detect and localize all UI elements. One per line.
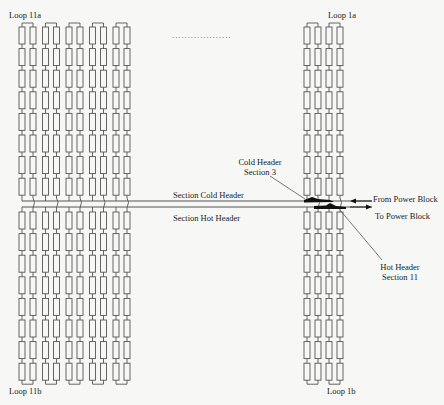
- loop-11-collector-module: [77, 298, 83, 315]
- loop-11-collector-module: [113, 178, 119, 195]
- loop-11-collector-module: [124, 157, 130, 174]
- loop-11-collector-module: [43, 178, 49, 195]
- loop-1-top-u-bend: [329, 23, 340, 27]
- loop-11-collector-module: [113, 298, 119, 315]
- loop-11-collector-module: [54, 27, 60, 44]
- loop-11-collector-module: [113, 212, 119, 229]
- loop-1-collector-module: [337, 363, 343, 380]
- loop-11-crossover: [57, 195, 59, 212]
- hot-header-section-label: Hot Header Section 11: [370, 262, 430, 282]
- loop-1-collector-module: [315, 234, 321, 251]
- loop-11-collector-module: [90, 320, 96, 337]
- cold-header-section-line1: Cold Header: [224, 157, 296, 167]
- loop-11-collector-module: [66, 92, 72, 109]
- loop-11-collector-module: [101, 178, 107, 195]
- loop-1-collector-module: [304, 298, 310, 315]
- loop-11-collector-module: [30, 178, 36, 195]
- cold-header-leader-line: [270, 176, 305, 199]
- loop-11-collector-module: [66, 49, 72, 66]
- loop-11-collector-module: [113, 135, 119, 152]
- loop-11-collector-module: [43, 49, 49, 66]
- loop-11-collector-module: [77, 92, 83, 109]
- loop-11-collector-module: [30, 342, 36, 359]
- loop-11-collector-module: [43, 113, 49, 130]
- loop-11-bottom-u-bend: [69, 380, 80, 384]
- loop-1-collector-module: [304, 255, 310, 272]
- loop-11-collector-module: [113, 363, 119, 380]
- loop-11-collector-module: [19, 70, 25, 87]
- loop-1-collector-module: [337, 255, 343, 272]
- loop-11-collector-module: [124, 342, 130, 359]
- loop-1-top-u-bend: [307, 23, 318, 27]
- loop-11-collector-module: [66, 157, 72, 174]
- loop-11-top-u-bend: [46, 23, 57, 27]
- loop-1-collector-module: [337, 135, 343, 152]
- loop-11-bottom-u-bend: [93, 380, 104, 384]
- loop-1-collector-module: [337, 113, 343, 130]
- loop-11b-label: Loop 11b: [9, 386, 42, 396]
- loop-11-collector-module: [30, 298, 36, 315]
- loop-11-collector-module: [124, 135, 130, 152]
- loop-1-collector-module: [304, 320, 310, 337]
- loop-11-collector-module: [113, 342, 119, 359]
- loop-1-collector-module: [304, 135, 310, 152]
- loop-1-collector-module: [326, 342, 332, 359]
- loop-11-collector-module: [113, 70, 119, 87]
- loop-11-collector-module: [19, 49, 25, 66]
- loop-11-collector-module: [77, 27, 83, 44]
- loop-11-collector-module: [30, 49, 36, 66]
- loop-1-collector-module: [326, 49, 332, 66]
- loop-1-collector-module: [326, 277, 332, 294]
- loop-11-collector-module: [54, 277, 60, 294]
- loop-1-collector-module: [337, 212, 343, 229]
- loop-11-collector-module: [30, 234, 36, 251]
- loop-1-collector-module: [315, 27, 321, 44]
- loop-1-collector-module: [326, 320, 332, 337]
- loop-1-collector-module: [304, 157, 310, 174]
- loop-11-collector-module: [66, 113, 72, 130]
- loop-11-crossover: [33, 195, 35, 212]
- loop-11-collector-module: [54, 255, 60, 272]
- loop-11-collector-module: [77, 320, 83, 337]
- loop-11-collector-module: [43, 320, 49, 337]
- loop-11-collector-module: [113, 92, 119, 109]
- hot-header-section-line2: Section 11: [370, 272, 430, 282]
- loop-11-collector-module: [19, 234, 25, 251]
- loop-1a-label: Loop 1a: [328, 10, 356, 20]
- loop-11-collector-module: [90, 363, 96, 380]
- loop-11-collector-module: [54, 298, 60, 315]
- loop-1-collector-module: [315, 178, 321, 195]
- loop-1-collector-module: [315, 113, 321, 130]
- loop-11-top-u-bend: [116, 23, 127, 27]
- loop-11-collector-module: [90, 70, 96, 87]
- loop-11-crossover: [104, 195, 106, 212]
- loop-11-collector-module: [66, 255, 72, 272]
- loop-11-collector-module: [77, 212, 83, 229]
- loop-11-bottom-u-bend: [116, 380, 127, 384]
- loop-1-collector-module: [326, 298, 332, 315]
- loop-11-collector-module: [124, 113, 130, 130]
- loop-11-collector-module: [30, 277, 36, 294]
- loop-11-top-u-bend: [69, 23, 80, 27]
- loop-1-collector-module: [337, 27, 343, 44]
- loop-11-collector-module: [77, 277, 83, 294]
- loop-1-collector-module: [337, 92, 343, 109]
- loop-11-collector-module: [66, 178, 72, 195]
- loop-11-collector-module: [101, 135, 107, 152]
- loop-11-collector-module: [90, 135, 96, 152]
- loop-11-collector-module: [43, 277, 49, 294]
- loop-1-collector-module: [304, 234, 310, 251]
- loop-11-collector-module: [90, 27, 96, 44]
- loop-11-collector-module: [54, 113, 60, 130]
- loop-11-collector-module: [124, 49, 130, 66]
- loop-11-collector-module: [54, 70, 60, 87]
- loop-1-collector-module: [304, 212, 310, 229]
- loop-11-collector-module: [54, 320, 60, 337]
- loop-11-collector-module: [124, 234, 130, 251]
- loop-1-collector-module: [304, 92, 310, 109]
- loop-11-collector-module: [77, 234, 83, 251]
- loop-1-collector-module: [326, 178, 332, 195]
- arrow-head-icon: [366, 205, 372, 210]
- loop-11-collector-module: [54, 157, 60, 174]
- loop-11-collector-module: [66, 27, 72, 44]
